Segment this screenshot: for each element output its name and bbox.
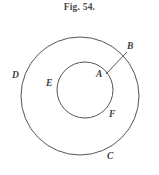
point-label-d: D: [12, 71, 19, 81]
figure-page: Fig. 54. B A D E F C: [0, 0, 159, 175]
inner-circle: [57, 62, 113, 118]
segment-a-to-b: [106, 52, 127, 74]
point-label-e: E: [46, 79, 52, 89]
circles-diagram: [0, 0, 159, 175]
point-label-f: F: [109, 110, 115, 120]
point-label-b: B: [127, 42, 133, 52]
point-label-c: C: [107, 152, 113, 162]
outer-circle: [21, 37, 139, 155]
point-label-a: A: [96, 70, 102, 80]
